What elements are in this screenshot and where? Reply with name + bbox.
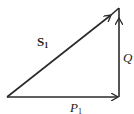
label-s1-sub: 1 xyxy=(44,41,48,50)
label-q: Q xyxy=(123,51,132,64)
vector-triangle-diagram xyxy=(0,0,134,114)
label-p1-main: P xyxy=(70,100,78,114)
vector-s1-tip xyxy=(111,8,119,15)
label-p1-sub: 1 xyxy=(78,107,82,114)
vector-s1 xyxy=(7,15,111,97)
label-q-main: Q xyxy=(123,50,132,65)
label-s1: S1 xyxy=(37,35,48,52)
label-p1: P1 xyxy=(70,101,82,114)
